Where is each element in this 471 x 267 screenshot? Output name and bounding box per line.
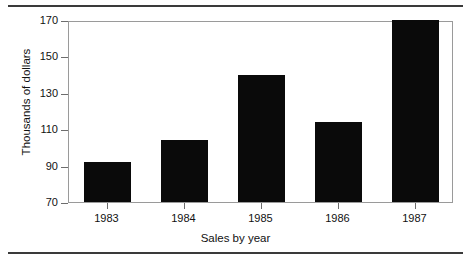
x-axis-tick-label: 1983 bbox=[77, 212, 137, 224]
y-axis-tick-label: 70 bbox=[12, 197, 58, 208]
bar-1987 bbox=[392, 20, 440, 202]
y-axis-tick-label-text: 70 bbox=[18, 197, 58, 208]
top-rule bbox=[8, 5, 463, 7]
x-axis-tick bbox=[184, 203, 185, 209]
x-axis-tick bbox=[415, 203, 416, 209]
y-axis-tick bbox=[61, 167, 68, 168]
bar-1985 bbox=[238, 75, 286, 202]
bars-layer bbox=[69, 22, 452, 202]
y-axis-tick-label: 110 bbox=[12, 124, 58, 135]
y-axis-tick-label-text: 90 bbox=[18, 161, 58, 172]
x-axis-tick-label: 1987 bbox=[385, 212, 445, 224]
y-axis-tick bbox=[61, 21, 68, 22]
x-axis-tick-label: 1986 bbox=[308, 212, 368, 224]
y-axis-tick-label: 90 bbox=[12, 161, 58, 172]
bar-1984 bbox=[161, 140, 209, 202]
y-axis-tick-label-text: 150 bbox=[18, 51, 58, 62]
y-axis-tick-label: 150 bbox=[12, 51, 58, 62]
y-axis-tick-label-text: 110 bbox=[18, 124, 58, 135]
y-axis-tick bbox=[61, 94, 68, 95]
x-axis-title: Sales by year bbox=[0, 232, 471, 245]
y-axis-tick-label: 130 bbox=[12, 88, 58, 99]
y-axis-tick bbox=[61, 203, 68, 204]
x-axis-tick bbox=[261, 203, 262, 209]
y-axis-tick bbox=[61, 130, 68, 131]
x-axis-tick bbox=[338, 203, 339, 209]
x-axis-tick bbox=[107, 203, 108, 209]
bar-1986 bbox=[315, 122, 363, 202]
x-axis-tick-label: 1984 bbox=[154, 212, 214, 224]
x-axis-tick-label: 1985 bbox=[231, 212, 291, 224]
y-axis-tick-label-text: 170 bbox=[18, 15, 58, 26]
y-axis-tick bbox=[61, 57, 68, 58]
bar-1983 bbox=[84, 162, 132, 202]
y-axis-tick-label: 170 bbox=[12, 15, 58, 26]
y-axis-tick-label-text: 130 bbox=[18, 88, 58, 99]
bottom-rule bbox=[8, 252, 463, 254]
figure: Thousands of dollars Sales by year 17015… bbox=[0, 0, 471, 267]
plot-area bbox=[68, 21, 453, 203]
